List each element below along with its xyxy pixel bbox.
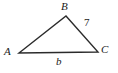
side-label-base: b	[56, 56, 62, 67]
vertex-label-a: A	[4, 46, 11, 57]
vertex-label-c: C	[101, 44, 108, 55]
side-label-right: 7	[84, 17, 90, 28]
vertex-label-b: B	[61, 1, 68, 12]
triangle-figure: A B C b 7	[0, 0, 118, 73]
